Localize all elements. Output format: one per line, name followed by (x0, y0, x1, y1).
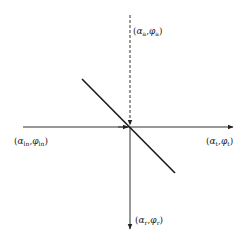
label-top: (αa,φa) (133, 26, 162, 36)
label-top-close: ) (159, 26, 163, 36)
diagram-canvas (0, 0, 249, 243)
diagonal-line (82, 79, 175, 173)
label-left-close: ) (44, 136, 48, 146)
label-right: (αt,φt) (206, 136, 233, 146)
label-bottom: (αr,φr) (135, 215, 163, 225)
label-left: (αln,φln) (14, 136, 48, 146)
label-bottom-close: ) (160, 215, 164, 225)
label-right-close: ) (230, 136, 234, 146)
